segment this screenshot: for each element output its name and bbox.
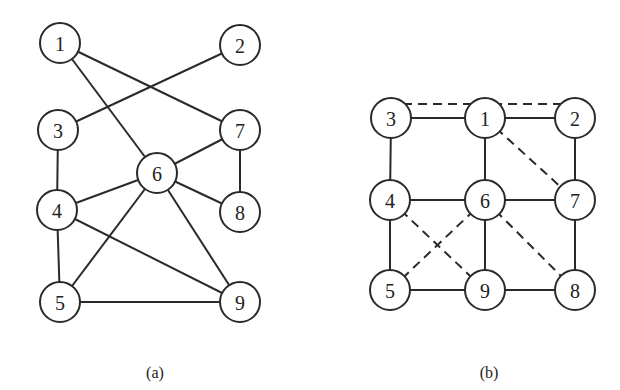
panel-a-caption: (a) xyxy=(146,364,164,382)
node-label: 6 xyxy=(480,190,490,212)
node-5: 5 xyxy=(370,270,410,310)
node-label: 4 xyxy=(385,190,395,212)
node-7: 7 xyxy=(555,180,595,220)
panel-b-nodes: 312467598 xyxy=(370,98,595,310)
node-label: 2 xyxy=(235,35,245,57)
node-9: 9 xyxy=(220,282,260,322)
node-5: 5 xyxy=(40,282,80,322)
node-1: 1 xyxy=(40,23,80,63)
node-6: 6 xyxy=(137,153,177,193)
node-label: 9 xyxy=(480,280,490,302)
node-9: 9 xyxy=(465,270,505,310)
node-3: 3 xyxy=(38,110,78,150)
node-2: 2 xyxy=(220,25,260,65)
panel-b-caption: (b) xyxy=(480,364,499,382)
node-label: 9 xyxy=(235,292,245,314)
node-1: 1 xyxy=(465,98,505,138)
node-label: 5 xyxy=(55,292,65,314)
node-label: 1 xyxy=(480,108,490,130)
node-2: 2 xyxy=(555,98,595,138)
edge-1-6 xyxy=(60,43,157,173)
panel-a-graph: 123764859 (a) xyxy=(37,23,260,382)
node-label: 8 xyxy=(235,202,245,224)
edge-4-9 xyxy=(57,210,240,302)
node-4: 4 xyxy=(37,190,77,230)
node-3: 3 xyxy=(371,98,411,138)
node-label: 8 xyxy=(570,280,580,302)
node-label: 6 xyxy=(152,163,162,185)
node-label: 2 xyxy=(570,108,580,130)
node-label: 7 xyxy=(570,190,580,212)
node-label: 1 xyxy=(55,33,65,55)
node-8: 8 xyxy=(220,192,260,232)
node-label: 4 xyxy=(52,200,62,222)
node-6: 6 xyxy=(465,180,505,220)
node-7: 7 xyxy=(220,110,260,150)
node-label: 3 xyxy=(386,108,396,130)
panel-a-nodes: 123764859 xyxy=(37,23,260,322)
edge-6-5 xyxy=(60,173,157,302)
node-8: 8 xyxy=(555,270,595,310)
graph-figure: 123764859 (a) 312467598 (b) xyxy=(0,0,620,390)
panel-b-graph: 312467598 (b) xyxy=(370,98,595,382)
node-label: 3 xyxy=(53,120,63,142)
node-label: 5 xyxy=(385,280,395,302)
node-label: 7 xyxy=(235,120,245,142)
node-4: 4 xyxy=(370,180,410,220)
